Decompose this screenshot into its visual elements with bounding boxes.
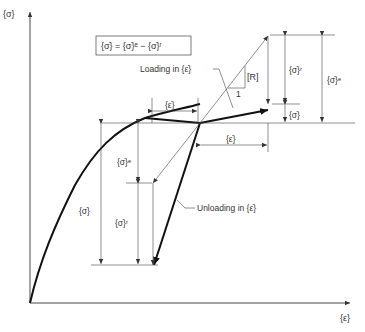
sigma-dot-r-right-label: {σ̇}ʳ — [289, 65, 302, 75]
r-matrix-label: [R] — [247, 72, 259, 82]
eps-dot-top-label: {ε̇} — [165, 100, 175, 110]
left-sigma-dims — [91, 124, 158, 265]
equation-text: {σ̇} = {σ̇}ᵉ − {σ̇}ʳ — [101, 41, 162, 51]
loading-arrow — [200, 110, 268, 123]
right-sigma-dims — [270, 35, 335, 122]
sigma-dot-left-label: {σ̇} — [79, 206, 90, 216]
sigma-dot-r-left-label: {σ̇}ʳ — [115, 218, 128, 228]
sigma-dot-e-right-label: {σ̇}ᵉ — [327, 75, 341, 85]
slope-triangle — [228, 66, 245, 88]
unloading-arrow — [154, 123, 200, 265]
sigma-dot-right-label: {σ̇} — [289, 110, 300, 120]
loading-label: Loading in {ε̇} — [140, 64, 191, 74]
curve-to-point — [145, 118, 200, 123]
sigma-dot-e-left-label: {σ̇}ᵉ — [117, 157, 131, 167]
elastic-unload-arrow — [153, 123, 200, 183]
slope-one-label: 1 — [236, 89, 241, 99]
eps-dot-right-label: {ε̇} — [226, 134, 236, 144]
x-axis-label: {ε} — [340, 313, 350, 323]
unloading-label: Unloading in {ε̇} — [197, 203, 256, 213]
unloading-leader — [177, 200, 195, 208]
stress-strain-diagram: {σ} {ε} [R] 1 {σ̇} = {σ̇}ᵉ − {σ̇}ʳ Loadi… — [0, 0, 365, 332]
y-axis-label: {σ} — [3, 9, 15, 19]
